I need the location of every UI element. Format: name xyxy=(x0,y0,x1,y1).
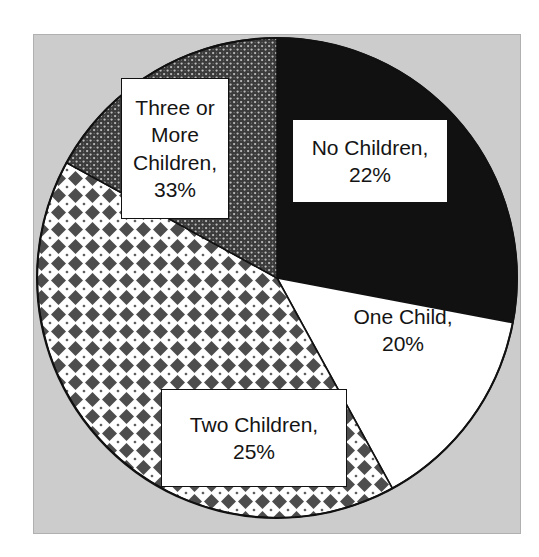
pie-label-two-children: Two Children, 25% xyxy=(161,389,347,487)
pie-label-value: 25% xyxy=(233,438,275,465)
pie-label-value: 33% xyxy=(154,176,196,203)
pie-label-line: Children, xyxy=(133,149,217,176)
pie-label-value: 22% xyxy=(349,161,391,188)
pie-label-no-children: No Children, 22% xyxy=(292,119,448,203)
pie-label-line: More xyxy=(151,121,199,148)
pie-label-line: No Children, xyxy=(312,134,429,161)
pie-label-one-child: One Child, 20% xyxy=(329,297,477,363)
pie-label-line: One Child, xyxy=(353,303,452,330)
pie-label-three-or-more-children: Three or More Children, 33% xyxy=(121,78,229,219)
pie-label-line: Two Children, xyxy=(190,411,318,438)
caption-remnant-text xyxy=(36,0,506,5)
pie-label-value: 20% xyxy=(382,330,424,357)
pie-label-line: Three or xyxy=(135,94,214,121)
